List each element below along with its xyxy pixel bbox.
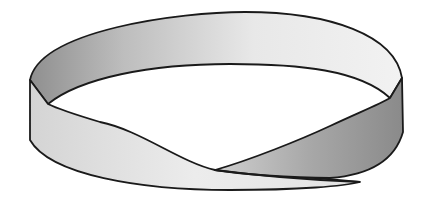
mobius-strip-drawing [0,0,437,205]
back-band [30,12,402,104]
front-right-band [215,78,403,178]
mobius-strip-illustration: Möbius strip [0,0,437,205]
